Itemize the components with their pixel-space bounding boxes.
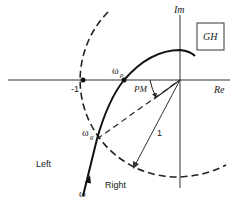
omega-label: ω <box>79 188 86 199</box>
minus-one-point <box>81 78 86 83</box>
omega-g-sub: g <box>90 133 94 141</box>
minus-one-label: -1 <box>71 84 79 94</box>
re-label: Re <box>213 84 225 95</box>
nyquist-diagram: GH Im Re -1 ω p ω g ω PM 1 Left Right <box>0 0 237 201</box>
right-label: Right <box>105 180 127 190</box>
omega-p-label: ω <box>112 65 119 76</box>
pm-label: PM <box>133 84 147 94</box>
nyquist-curve <box>83 50 195 196</box>
omega-p-sub: p <box>119 71 124 79</box>
im-label: Im <box>173 4 185 15</box>
omega-g-label: ω <box>82 127 89 138</box>
radius-label: 1 <box>157 128 162 138</box>
pm-ref <box>154 80 180 99</box>
left-label: Left <box>36 159 52 169</box>
gh-label: GH <box>203 31 218 42</box>
